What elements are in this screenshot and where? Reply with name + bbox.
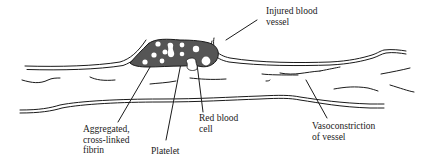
label-platelet: Platelet — [151, 146, 180, 157]
label-fibrin: Aggregated, cross-linked fibrin — [83, 124, 130, 156]
vessel-wall-top-right — [214, 38, 406, 63]
leader-rbc — [197, 64, 203, 112]
label-vasoconstriction: Vasoconstriction of vessel — [312, 121, 375, 142]
label-red-blood-cell: Red blood cell — [199, 113, 238, 134]
leader-injured-vessel — [226, 20, 257, 40]
label-injured-vessel: Injured blood vessel — [266, 6, 317, 27]
blood-flow-lines — [22, 67, 414, 92]
red-blood-cell — [186, 58, 197, 71]
vessel-wall-top-left — [25, 40, 146, 66]
leader-fibrin — [118, 62, 153, 122]
leader-vasoconstriction — [306, 80, 327, 118]
